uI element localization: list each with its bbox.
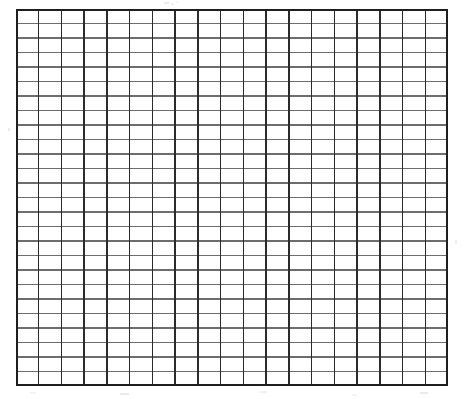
scan-speckle [8,128,10,131]
scan-speckle [455,240,457,244]
scan-speckle [352,394,357,396]
blank-grid[interactable] [16,9,448,386]
scan-speckle [30,392,36,394]
scan-speckle [176,1,178,3]
scan-speckle [260,391,267,393]
scan-speckle [164,2,169,4]
scan-speckle [120,393,129,395]
scan-speckle [171,3,174,5]
page-root [0,0,468,399]
grid-lines-svg [16,9,448,386]
scan-speckle [420,392,428,394]
